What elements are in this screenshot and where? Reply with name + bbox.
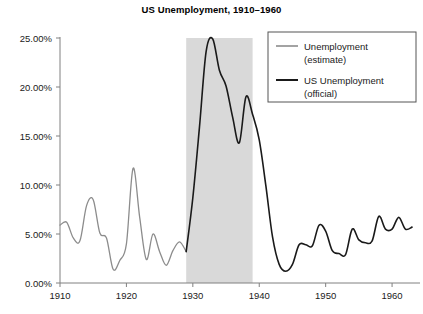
y-tick-label: 15.00% bbox=[20, 131, 53, 142]
x-tick-label: 1930 bbox=[182, 290, 203, 301]
series-line-estimate bbox=[60, 168, 186, 270]
x-axis-ticks: 191019201930194019501960 bbox=[49, 283, 402, 301]
x-tick-label: 1920 bbox=[116, 290, 137, 301]
legend-sublabel: (estimate) bbox=[304, 54, 346, 65]
x-tick-label: 1950 bbox=[315, 290, 336, 301]
x-tick-label: 1910 bbox=[49, 290, 70, 301]
chart-legend: Unemployment(estimate)US Unemployment(of… bbox=[268, 32, 416, 102]
chart-container: US Unemployment, 1910–1960 0.00%5.00%10.… bbox=[0, 0, 423, 314]
y-tick-label: 5.00% bbox=[25, 229, 52, 240]
y-axis-ticks: 0.00%5.00%10.00%15.00%20.00%25.00% bbox=[20, 33, 60, 289]
y-tick-label: 10.00% bbox=[20, 180, 53, 191]
legend-label: US Unemployment bbox=[304, 75, 384, 86]
x-tick-label: 1960 bbox=[382, 290, 403, 301]
y-tick-label: 20.00% bbox=[20, 82, 53, 93]
chart-plot: 0.00%5.00%10.00%15.00%20.00%25.00% 19101… bbox=[0, 0, 423, 314]
y-tick-label: 25.00% bbox=[20, 33, 53, 44]
x-tick-label: 1940 bbox=[249, 290, 270, 301]
y-tick-label: 0.00% bbox=[25, 278, 52, 289]
legend-sublabel: (official) bbox=[304, 88, 337, 99]
legend-label: Unemployment bbox=[304, 41, 368, 52]
